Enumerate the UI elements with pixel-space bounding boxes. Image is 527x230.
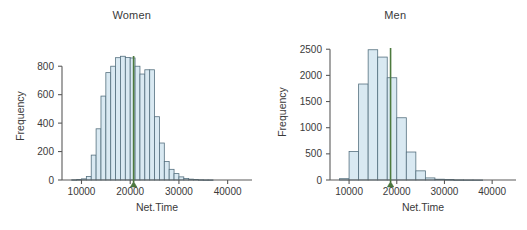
histogram-bar: [406, 152, 416, 180]
x-tick-label: 40000: [478, 186, 506, 197]
x-tick-label: 40000: [214, 186, 242, 197]
histogram-bar: [396, 118, 406, 180]
bars-group: [339, 50, 482, 181]
histogram-bar: [164, 162, 169, 180]
y-tick-label: 0: [48, 175, 54, 186]
x-tick-label: 30000: [165, 186, 193, 197]
histogram-bar: [159, 143, 164, 180]
y-axis-title: Frequency: [14, 90, 26, 140]
panel-women: Women 100002000030000400000200400600800N…: [0, 0, 264, 230]
histogram-bar: [120, 56, 125, 180]
histogram-bar: [116, 58, 121, 180]
plot-area-women: 100002000030000400000200400600800Net.Tim…: [0, 0, 264, 230]
histogram-bar: [169, 169, 174, 180]
figure-two-histograms: Women 100002000030000400000200400600800N…: [0, 0, 527, 230]
x-tick-label: 20000: [116, 186, 144, 197]
histogram-bar: [155, 117, 160, 180]
y-tick-label: 600: [37, 89, 54, 100]
x-tick-label: 20000: [382, 186, 410, 197]
x-axis-title: Net.Time: [136, 201, 178, 213]
histogram-bar: [150, 70, 155, 180]
histogram-bar: [106, 73, 111, 180]
x-tick-label: 10000: [68, 186, 96, 197]
median-triangle-marker: [387, 182, 393, 188]
y-tick-label: 1000: [299, 122, 322, 133]
histogram-men: 1000020000300004000005001000150020002500…: [264, 0, 527, 230]
bars-group: [72, 56, 213, 180]
histogram-bar: [96, 129, 101, 180]
x-tick-label: 30000: [430, 186, 458, 197]
histogram-bar: [111, 66, 116, 180]
panel-men: Men 100002000030000400000500100015002000…: [264, 0, 527, 230]
median-triangle-marker: [130, 182, 136, 188]
y-tick-label: 500: [305, 148, 322, 159]
histogram-bar: [377, 57, 387, 180]
histogram-bar: [101, 96, 106, 180]
y-tick-label: 800: [37, 61, 54, 72]
plot-area-men: 1000020000300004000005001000150020002500…: [264, 0, 527, 230]
x-axis-title: Net.Time: [401, 201, 443, 213]
y-axis-title: Frequency: [276, 86, 288, 136]
histogram-bar: [368, 50, 378, 180]
y-tick-label: 200: [37, 146, 54, 157]
histogram-bar: [349, 151, 359, 180]
y-tick-label: 400: [37, 118, 54, 129]
y-tick-label: 1500: [299, 96, 322, 107]
y-tick-label: 0: [316, 175, 322, 186]
histogram-bar: [415, 171, 425, 180]
y-tick-label: 2000: [299, 70, 322, 81]
histogram-bar: [135, 66, 140, 180]
x-tick-label: 10000: [335, 186, 363, 197]
histogram-bar: [358, 84, 368, 180]
histogram-bar: [145, 70, 150, 180]
histogram-bar: [387, 78, 397, 180]
y-tick-label: 2500: [299, 44, 322, 55]
histogram-bar: [91, 155, 96, 180]
histogram-bar: [174, 174, 179, 180]
histogram-bar: [125, 57, 130, 180]
histogram-women: 100002000030000400000200400600800Net.Tim…: [0, 0, 263, 230]
histogram-bar: [140, 74, 145, 180]
